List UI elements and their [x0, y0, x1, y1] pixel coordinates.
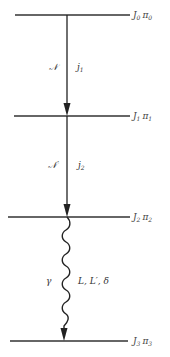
- multipolarity-label: L, L′, δ: [77, 276, 109, 286]
- transition-1-left-label: 𝒩: [49, 62, 61, 72]
- level-label-1: J1π1: [131, 111, 152, 122]
- arrowhead-3: [61, 328, 68, 341]
- decay-cascade-diagram: J0π0 J1π1 J2π2 J3π3 𝒩 j1 𝒩′ j2 γ L, L′, …: [0, 0, 170, 357]
- gamma-label: γ: [46, 276, 52, 286]
- level-label-2: J2π2: [131, 212, 152, 223]
- gamma-wavy-line: [62, 217, 70, 330]
- transition-2-right-label: j2: [76, 160, 85, 171]
- transition-2-left-label: 𝒩′: [48, 160, 60, 170]
- level-label-3: J3π3: [131, 336, 152, 347]
- arrowhead-2: [64, 204, 71, 217]
- arrowhead-1: [64, 103, 71, 116]
- transition-1-right-label: j1: [75, 62, 84, 73]
- level-label-0: J0π0: [131, 10, 152, 21]
